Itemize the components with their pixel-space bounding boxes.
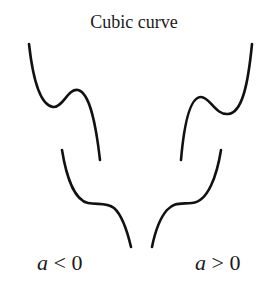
label-variable: a [37,250,48,275]
curve-a-positive-inflection [152,150,221,247]
curve-a-negative-three-extrema [29,44,100,160]
cubic-curves-figure [0,0,268,281]
curve-a-positive-three-extrema [181,44,252,160]
curve-a-negative-inflection [62,150,131,247]
label-relation: < 0 [48,250,82,275]
label-variable: a [195,250,206,275]
label-a-greater-than-zero: a > 0 [195,250,240,276]
label-a-less-than-zero: a < 0 [37,250,82,276]
label-relation: > 0 [206,250,240,275]
